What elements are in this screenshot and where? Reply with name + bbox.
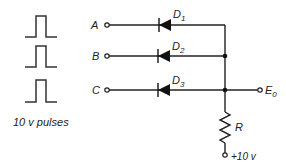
pulses-caption: 10 v pulses: [13, 116, 69, 128]
output-terminal: [258, 88, 262, 92]
input-label-c: C: [92, 84, 100, 96]
circuit-diagram: 10 v pulses A D1 B D2 C D3 E0 R +10 v: [0, 0, 286, 163]
resistor-label: R: [235, 121, 243, 133]
pulse-waveform-a: [25, 16, 57, 37]
diode-d1-icon: [159, 18, 171, 32]
junction-dot-c: [223, 88, 228, 93]
pulse-waveform-b: [25, 46, 57, 67]
output-label: E0: [265, 84, 277, 99]
diode-d3-icon: [158, 83, 170, 97]
terminal-a: [105, 23, 109, 27]
junction-dot-b: [223, 54, 228, 59]
diode-label-d1: D1: [173, 8, 185, 23]
input-label-a: A: [90, 19, 98, 31]
pulse-waveform-c: [25, 80, 57, 102]
terminal-b: [105, 54, 109, 58]
supply-label: +10 v: [231, 151, 257, 162]
terminal-c: [105, 88, 109, 92]
supply-terminal: [223, 153, 227, 157]
resistor-icon: [220, 112, 230, 143]
diode-label-d3: D3: [172, 74, 185, 89]
diode-d2-icon: [158, 49, 170, 63]
diode-label-d2: D2: [172, 40, 185, 55]
input-label-b: B: [92, 50, 99, 62]
